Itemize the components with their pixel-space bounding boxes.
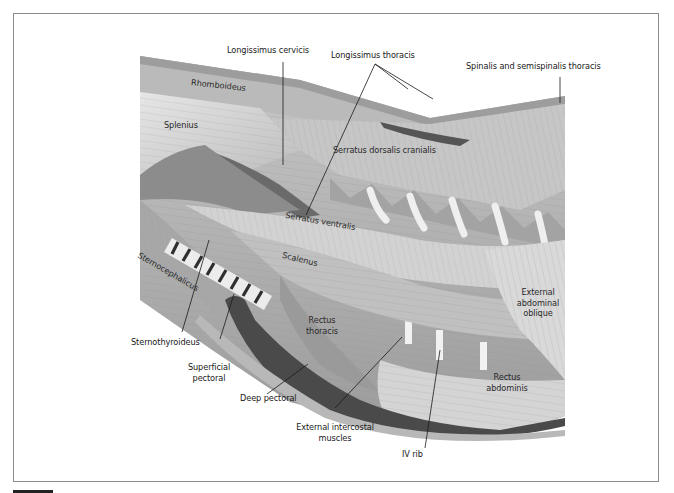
label-external-abdominal-oblique: External abdominal oblique [515, 287, 561, 319]
label-longissimus-thoracis: Longissimus thoracis [331, 50, 415, 61]
label-external-abdominal-line3: oblique [515, 308, 561, 319]
label-external-intercostal-muscles: External intercostal muscles [288, 422, 382, 443]
label-longissimus-cervicis: Longissimus cervicis [227, 45, 309, 56]
label-deep-pectoral: Deep pectoral [240, 393, 297, 404]
label-rectus-thoracis: Rectus thoracis [302, 315, 342, 336]
label-rectus-abdominis-line1: Rectus [485, 372, 529, 383]
label-rectus-thoracis-line2: thoracis [302, 326, 342, 337]
label-superficial-pectoral-line2: pectoral [184, 373, 234, 384]
label-rectus-abdominis-line2: abdominis [485, 383, 529, 394]
label-spinalis-semispinalis-thoracis: Spinalis and semispinalis thoracis [466, 61, 601, 72]
label-external-abdominal-line1: External [515, 287, 561, 298]
label-rectus-thoracis-line1: Rectus [302, 315, 342, 326]
label-superficial-pectoral-line1: Superficial [184, 362, 234, 373]
label-external-intercostal-line1: External intercostal [288, 422, 382, 433]
label-external-intercostal-line2: muscles [288, 433, 382, 444]
label-sternothyroideus: Sternothyroideus [131, 337, 200, 348]
label-rectus-abdominis: Rectus abdominis [485, 372, 529, 393]
label-iv-rib: IV rib [402, 449, 423, 460]
label-splenius: Splenius [164, 120, 198, 131]
label-serratus-dorsalis-cranialis: Serratus dorsalis cranialis [333, 145, 436, 156]
label-external-abdominal-line2: abdominal [515, 298, 561, 309]
muscle-illustration [0, 0, 674, 493]
label-superficial-pectoral: Superficial pectoral [184, 362, 234, 383]
